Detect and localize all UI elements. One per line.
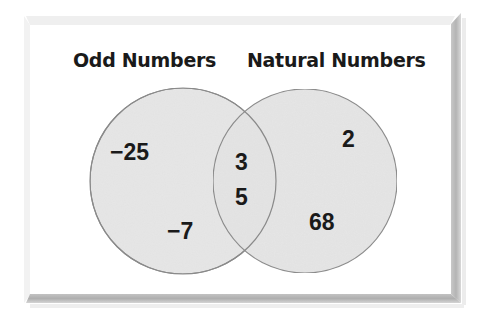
natural-numbers-circle — [213, 89, 397, 273]
element-right-only-1: 2 — [342, 128, 355, 151]
venn-diagram-frame: Odd Numbers Natural Numbers −25 −7 3 5 2… — [0, 0, 485, 321]
set-title-natural-numbers: Natural Numbers — [247, 51, 426, 70]
element-left-only-2: −7 — [167, 220, 193, 243]
element-right-only-2: 68 — [309, 211, 335, 234]
element-left-only-1: −25 — [110, 141, 149, 164]
element-intersection-1: 3 — [235, 151, 248, 174]
venn-circles — [90, 88, 397, 274]
set-title-odd-numbers: Odd Numbers — [73, 51, 216, 70]
element-intersection-2: 5 — [235, 186, 248, 209]
